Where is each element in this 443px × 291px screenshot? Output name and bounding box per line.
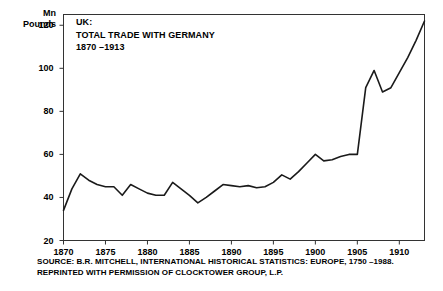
y-axis-tick-marks [60,25,64,240]
y-axis-tick-label: 60 [28,149,54,159]
source-note-line-1: SOURCE: B.R. MITCHELL, INTERNATIONAL HIS… [37,256,394,267]
y-axis-tick-label: 40 [28,192,54,202]
source-note-line-2: REPRINTED WITH PERMISSION OF CLOCKTOWER … [37,267,394,278]
x-axis-tick-label: 1870 [47,247,81,257]
y-axis-tick-label: 20 [28,236,54,246]
x-axis-tick-label: 1910 [382,247,416,257]
x-axis-tick-label: 1875 [88,247,122,257]
y-axis-tick-label: 80 [28,106,54,116]
x-axis-tick-label: 1880 [130,247,164,257]
x-axis-tick-label: 1900 [298,247,332,257]
chart-title-line-1: UK: [76,16,215,29]
x-axis-tick-label: 1885 [172,247,206,257]
x-axis-tick-label: 1895 [256,247,290,257]
y-axis-unit-line-1: Mn [8,8,56,19]
chart-title-line-3: 1870 –1913 [76,41,215,54]
x-axis-tick-label: 1905 [340,247,374,257]
chart-figure: Mn Pounds UK: TOTAL TRADE WITH GERMANY 1… [0,0,443,291]
chart-title-line-2: TOTAL TRADE WITH GERMANY [76,29,215,42]
y-axis-tick-label: 100 [28,63,54,73]
x-axis-tick-label: 1890 [214,247,248,257]
y-axis-tick-label: 120 [28,20,54,30]
chart-title: UK: TOTAL TRADE WITH GERMANY 1870 –1913 [76,16,215,54]
x-axis-tick-marks [64,241,400,245]
source-note: SOURCE: B.R. MITCHELL, INTERNATIONAL HIS… [37,256,394,278]
